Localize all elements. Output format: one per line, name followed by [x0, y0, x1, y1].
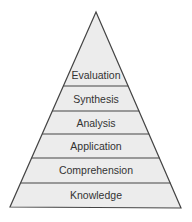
- pyramid-outline: [10, 12, 181, 208]
- level-label-knowledge: Knowledge: [70, 189, 122, 201]
- level-label-evaluation: Evaluation: [71, 69, 120, 81]
- level-label-application: Application: [70, 140, 122, 152]
- level-label-analysis: Analysis: [76, 117, 115, 129]
- level-label-comprehension: Comprehension: [59, 164, 133, 176]
- level-label-synthesis: Synthesis: [73, 93, 119, 105]
- bloom-taxonomy-pyramid: Evaluation Synthesis Analysis Applicatio…: [0, 0, 192, 222]
